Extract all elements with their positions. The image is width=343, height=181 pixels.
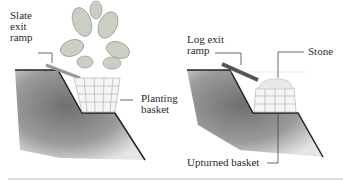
planting-basket (74, 78, 120, 112)
stone-label: Stone (308, 46, 333, 57)
right-bank (187, 70, 323, 157)
log-exit-ramp-label: Log exit ramp (187, 34, 224, 56)
pond-edge-illustration (0, 0, 343, 181)
planting-basket-label: Planting basket (141, 93, 178, 115)
upturned-basket-label: Upturned basket (187, 157, 259, 168)
stone (258, 79, 292, 89)
slate-exit-ramp-label: Slate exit ramp (10, 10, 33, 43)
plant-icon (58, 1, 132, 69)
upturned-basket (254, 88, 296, 112)
